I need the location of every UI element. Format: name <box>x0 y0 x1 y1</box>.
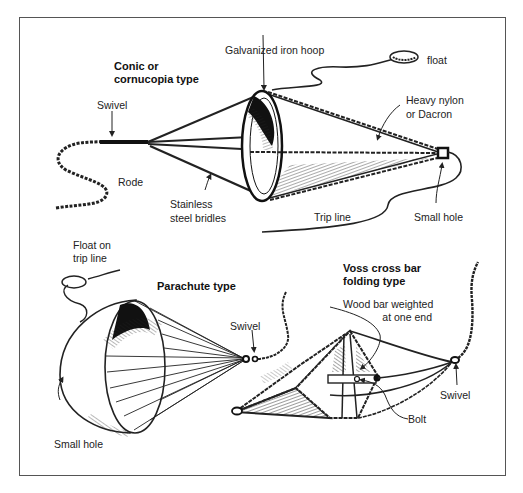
parachute-title: Parachute type <box>157 280 236 293</box>
voss-title-line2: folding type <box>343 275 405 288</box>
label-small-hole-parachute: Small hole <box>54 438 103 451</box>
conic-title-line2: cornucopia type <box>114 73 199 86</box>
label-float: float <box>427 54 447 67</box>
label-wood-bar-line2: at one end <box>343 311 432 324</box>
label-small-hole-conic: Small hole <box>414 211 463 224</box>
label-rode: Rode <box>118 176 143 189</box>
label-swivel-conic: Swivel <box>97 99 127 112</box>
label-heavy-nylon-line2: or Dacron <box>406 108 452 121</box>
label-heavy-nylon-line1: Heavy nylon <box>406 94 464 107</box>
voss-title-line1: Voss cross bar <box>343 262 421 275</box>
label-float-on-trip-line-line2: trip line <box>73 252 107 265</box>
label-swivel-parachute: Swivel <box>230 320 260 333</box>
label-galvanized-iron-hoop: Galvanized iron hoop <box>225 44 324 57</box>
label-float-on-trip-line-line1: Float on <box>73 239 111 252</box>
label-bolt: Bolt <box>408 413 426 426</box>
label-stainless-bridles-line2: steel bridles <box>170 212 226 225</box>
label-stainless-bridles-line1: Stainless <box>170 198 213 211</box>
label-swivel-voss: Swivel <box>440 389 470 402</box>
label-wood-bar-line1: Wood bar weighted <box>343 298 433 311</box>
label-trip-line: Trip line <box>314 211 351 224</box>
conic-title-line1: Conic or <box>114 60 159 73</box>
